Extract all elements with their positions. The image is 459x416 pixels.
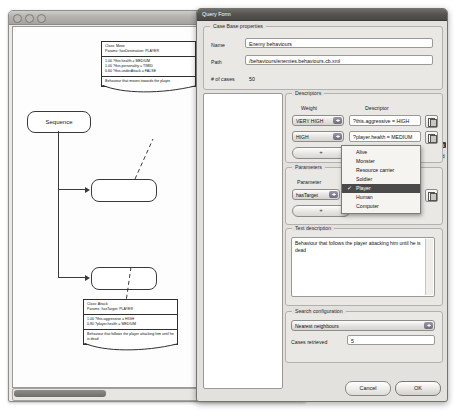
descriptor-edit-button-1[interactable] [425, 115, 438, 128]
descriptors-descriptor-header: Descriptor [365, 105, 389, 111]
diagram-note-move[interactable]: Class: Move Params: hasDestination: PLAY… [101, 41, 196, 87]
diagram-node-task-2[interactable] [91, 267, 157, 290]
descriptor-weight-value-2: HIGH [296, 134, 309, 140]
descriptors-label: Descriptors [292, 90, 324, 96]
cases-retrieved-input[interactable]: 5 [347, 335, 435, 345]
chevron-updown-icon[interactable] [329, 191, 338, 198]
descriptors-weight-header: Weight [301, 105, 317, 111]
window-traffic-lights[interactable] [13, 14, 46, 23]
close-icon[interactable] [13, 14, 22, 23]
path-field[interactable]: /behaviours/enemies.behaviours.cb.xml [245, 55, 433, 65]
note-attack-description: Behaviour that follows the player attack… [84, 330, 177, 344]
search-configuration-label: Search configuration [292, 308, 346, 314]
menu-item-human-label: Human [356, 194, 373, 200]
parameters-label: Parameters [292, 164, 325, 170]
menu-item-computer[interactable]: Computer [342, 202, 420, 211]
zoom-icon[interactable] [37, 14, 46, 23]
chevron-updown-icon[interactable] [424, 322, 433, 329]
parameter-name-1: hasTarget [296, 192, 318, 198]
diagram-edge-branch-1 [58, 189, 85, 190]
minimize-icon[interactable] [25, 14, 34, 23]
search-method-value: Nearest neighbours [295, 323, 339, 329]
diagram-node-task-1[interactable] [91, 179, 157, 202]
diagram-node-sequence[interactable]: Sequence [27, 111, 91, 133]
menu-item-alive[interactable]: Alive [342, 148, 420, 157]
document-icon [430, 119, 437, 127]
parameter-value-menu[interactable]: Alive Monster Resource carrier Soldier ✓… [341, 145, 421, 214]
parameters-parameter-header: Parameter [297, 179, 321, 185]
textarea-scrollbar[interactable] [425, 239, 433, 295]
ok-button[interactable]: OK [395, 381, 441, 396]
diagram-arrow-2 [85, 275, 90, 281]
descriptor-weight-select-1[interactable]: VERY HIGH [292, 115, 344, 126]
diagram-note-attack[interactable]: Class: Attack Params: hasTarget: PLAYER … [83, 299, 178, 345]
check-icon: ✓ [347, 184, 352, 193]
cancel-button[interactable]: Cancel [345, 381, 391, 396]
note-attack-weight-2: 0.80 ?player.health = MEDIUM [87, 322, 174, 327]
note-move-params: Params: hasDestination: PLAYER [105, 49, 192, 54]
diagram-edge-branch-2 [58, 277, 85, 278]
document-icon [430, 193, 437, 201]
path-label: Path [211, 59, 222, 65]
search-method-select[interactable]: Nearest neighbours [291, 320, 435, 331]
descriptor-weight-select-2[interactable]: HIGH [292, 131, 344, 142]
menu-item-soldier[interactable]: Soldier [342, 175, 420, 184]
descriptor-edit-button-2[interactable] [425, 131, 438, 144]
menu-item-resource-carrier[interactable]: Resource carrier [342, 166, 420, 175]
cases-retrieved-label: Cases retrieved [291, 339, 327, 345]
chevron-updown-icon[interactable] [333, 117, 342, 124]
parameter-edit-button-1[interactable] [425, 189, 438, 202]
document-icon [430, 135, 437, 143]
note-move-header: Class: Move Params: hasDestination: PLAY… [102, 42, 195, 56]
note-attack-params: Params: hasTarget: PLAYER [87, 307, 174, 312]
parameter-select-1[interactable]: hasTarget [292, 189, 340, 200]
menu-item-human[interactable]: Human [342, 193, 420, 202]
note-move-weight-3: 0.60 ?this.underAttack = FALSE [105, 69, 192, 74]
menu-item-resource-carrier-label: Resource carrier [356, 167, 394, 173]
case-base-properties-label: Case Base properties [210, 23, 266, 29]
descriptor-field-2[interactable]: ?player.health = MEDIUM [349, 131, 421, 142]
note-attack-header: Class: Attack Params: hasTarget: PLAYER [84, 300, 177, 314]
menu-item-monster-label: Monster [356, 158, 375, 164]
menu-item-player-label: Player [356, 185, 371, 191]
scrollbar-thumb[interactable] [14, 390, 106, 397]
note-fold [84, 343, 177, 351]
diagram-arrow-1 [85, 187, 90, 193]
note-move-weights: 1.00 ?this.health = MEDIUM 1.00 ?this.pe… [102, 57, 195, 76]
chevron-updown-icon[interactable] [333, 133, 342, 140]
text-description-label: Text description [292, 225, 334, 231]
text-description-textarea[interactable]: Behaviour that follows the player attack… [291, 237, 435, 297]
menu-item-alive-label: Alive [356, 149, 367, 155]
diagram-edge-trunk-lower [58, 189, 59, 278]
name-label: Name [211, 42, 225, 48]
dialog-title: Query Form [197, 9, 447, 21]
descriptor-field-1[interactable]: ?this.aggressive = HIGH [349, 115, 421, 126]
menu-item-monster[interactable]: Monster [342, 157, 420, 166]
name-field[interactable]: Enemy behaviours [245, 38, 433, 48]
descriptor-weight-value-1: VERY HIGH [296, 118, 323, 124]
note-attack-weights: 1.00 ?this.aggressive = HIGH 0.80 ?playe… [84, 315, 177, 329]
diagram-node-sequence-label: Sequence [45, 119, 72, 125]
menu-item-computer-label: Computer [356, 203, 379, 209]
menu-item-soldier-label: Soldier [356, 176, 372, 182]
text-description-value: Behaviour that follows the player attack… [295, 240, 421, 253]
menu-item-player[interactable]: ✓ Player [342, 184, 420, 193]
behaviour-tree-panel[interactable] [203, 93, 283, 389]
cases-count-label: # of cases [211, 76, 235, 82]
cases-count-value: 50 [249, 76, 255, 82]
note-fold [102, 85, 195, 93]
